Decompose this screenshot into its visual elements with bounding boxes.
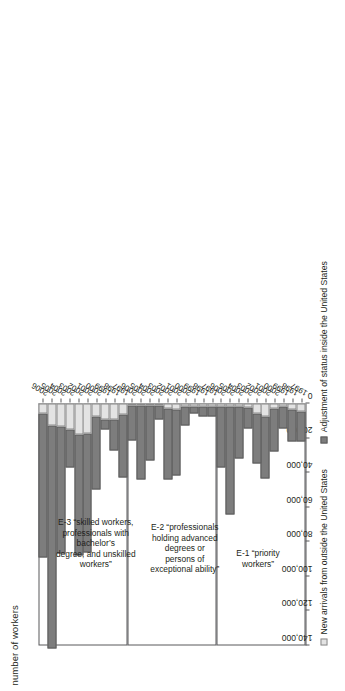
bar-e-2-2001 xyxy=(171,403,180,475)
bar-segment-new-arrivals xyxy=(145,403,154,405)
category-tick xyxy=(87,398,88,402)
bar-segment-adjustment xyxy=(91,416,100,489)
category-tick xyxy=(203,398,204,402)
bar-segment-new-arrivals xyxy=(154,403,163,405)
bar-e-1-2003 xyxy=(243,403,252,428)
bar-e-1-2002 xyxy=(252,403,261,464)
bar-segment-new-arrivals xyxy=(136,403,145,405)
bar-segment-new-arrivals xyxy=(38,403,47,413)
chart-canvas: number of workers 140,000120,000100,0008… xyxy=(0,0,345,691)
bar-segment-new-arrivals xyxy=(234,403,243,406)
bar-segment-adjustment xyxy=(118,414,127,477)
category-tick xyxy=(283,398,284,402)
bar-segment-new-arrivals xyxy=(163,403,172,408)
value-axis-tick xyxy=(305,575,309,576)
bar-segment-new-arrivals xyxy=(198,403,207,406)
bar-e-2-2004 xyxy=(145,403,154,460)
category-tick xyxy=(123,398,124,402)
category-tick xyxy=(131,398,132,402)
bar-e-1-2000 xyxy=(269,403,278,451)
category-tick xyxy=(60,398,61,402)
value-axis-tick-label: 60,000 xyxy=(286,494,312,504)
bar-segment-new-arrivals xyxy=(278,403,287,406)
bar-segment-new-arrivals xyxy=(180,403,189,406)
bar-segment-new-arrivals xyxy=(109,403,118,419)
category-tick xyxy=(140,398,141,402)
panel-title-e-3: E-3 “skilled workers, professionals with… xyxy=(54,517,136,570)
bar-segment-adjustment xyxy=(136,405,145,479)
bar-segment-new-arrivals xyxy=(171,403,180,409)
category-tick xyxy=(212,398,213,402)
bar-segment-adjustment xyxy=(180,406,189,425)
category-tick xyxy=(51,398,52,402)
category-tick xyxy=(69,398,70,402)
category-tick xyxy=(78,398,79,402)
bar-e-1-2001 xyxy=(260,403,269,478)
value-axis-tick xyxy=(305,402,309,403)
bar-e-1-2005 xyxy=(225,403,234,514)
category-tick xyxy=(265,398,266,402)
bar-segment-adjustment xyxy=(198,406,207,416)
bar-segment-new-arrivals xyxy=(225,403,234,406)
value-axis-tick xyxy=(305,540,309,541)
bar-segment-new-arrivals xyxy=(47,403,56,425)
category-tick xyxy=(301,398,302,402)
bar-segment-adjustment xyxy=(38,413,47,556)
bar-segment-adjustment xyxy=(260,416,269,478)
bar-segment-new-arrivals xyxy=(207,403,216,406)
bar-segment-new-arrivals xyxy=(56,403,65,426)
bar-segment-new-arrivals xyxy=(74,403,83,434)
bar-segment-adjustment xyxy=(109,419,118,449)
bar-e-2-1997 xyxy=(207,403,216,416)
bar-e-1-1998 xyxy=(287,403,296,441)
light-square-icon xyxy=(320,638,327,645)
bar-e-3-2003 xyxy=(65,403,74,467)
bar-segment-adjustment xyxy=(252,413,261,464)
bar-e-2-2005 xyxy=(136,403,145,479)
category-tick xyxy=(185,398,186,402)
bar-e-1-2004 xyxy=(234,403,243,458)
category-tick xyxy=(274,398,275,402)
bar-segment-new-arrivals xyxy=(243,403,252,407)
value-axis-title: number of workers xyxy=(8,605,19,685)
category-tick xyxy=(114,398,115,402)
category-tick xyxy=(158,398,159,402)
bar-segment-adjustment xyxy=(287,409,296,441)
bar-segment-new-arrivals xyxy=(216,403,225,406)
bar-segment-adjustment xyxy=(207,406,216,416)
category-tick xyxy=(176,398,177,402)
bar-segment-adjustment xyxy=(189,406,198,413)
bar-segment-new-arrivals xyxy=(118,403,127,414)
value-axis-tick-label: 120,000 xyxy=(281,597,312,607)
legend-label-new-arrivals: New arrivals from outside the United Sta… xyxy=(318,469,328,634)
bar-e-2-2006 xyxy=(127,403,136,440)
value-axis-tick xyxy=(305,437,309,438)
bar-e-1-1999 xyxy=(278,403,287,428)
category-tick xyxy=(292,398,293,402)
bar-e-1-2006 xyxy=(216,403,225,467)
category-tick xyxy=(105,398,106,402)
category-tick xyxy=(194,398,195,402)
bar-e-3-2006 xyxy=(38,403,47,557)
bar-segment-new-arrivals xyxy=(100,403,109,419)
legend: New arrivals from outside the United Sta… xyxy=(318,261,328,645)
bar-segment-adjustment xyxy=(65,429,74,467)
bar-segment-new-arrivals xyxy=(287,403,296,409)
bar-e-3-1998 xyxy=(109,403,118,450)
bar-segment-new-arrivals xyxy=(127,403,136,405)
bar-segment-adjustment xyxy=(100,419,109,429)
legend-label-adjustment: Adjustment of status inside the United S… xyxy=(318,261,328,432)
bar-e-3-2000 xyxy=(91,403,100,489)
category-tick xyxy=(229,398,230,402)
bar-segment-adjustment xyxy=(163,408,172,479)
bar-segment-adjustment xyxy=(243,407,252,428)
bar-segment-new-arrivals xyxy=(252,403,261,413)
category-tick xyxy=(96,398,97,402)
bar-segment-new-arrivals xyxy=(269,403,278,408)
panel-title-e-2: E-2 “professionals holding advanced degr… xyxy=(143,522,225,575)
category-tick xyxy=(256,398,257,402)
bar-e-2-2000 xyxy=(180,403,189,425)
value-axis-tick xyxy=(305,471,309,472)
category-tick xyxy=(238,398,239,402)
value-axis-tick-label: 140,000 xyxy=(281,632,312,642)
